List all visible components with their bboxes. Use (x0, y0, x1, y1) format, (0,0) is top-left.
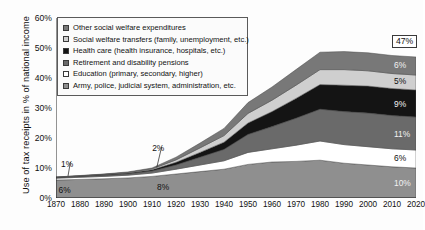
x-tick-1880: 1880 (71, 200, 89, 209)
legend-label: Social welfare transfers (family, unempl… (73, 36, 249, 44)
chart-legend: Other social welfare expendituresSocial … (57, 17, 248, 96)
band-education-2020: 6% (394, 153, 406, 163)
legend-item-2: Health care (health insurance, hospitals… (63, 45, 242, 57)
y-tick-40%: 40% (28, 73, 52, 83)
x-tick-1920: 1920 (167, 200, 185, 209)
y-tick-10%: 10% (28, 163, 52, 173)
left-total-1910: 2% (152, 143, 164, 153)
x-tick-2000: 2000 (359, 200, 377, 209)
legend-swatch-icon (63, 83, 69, 89)
y-tick-60%: 60% (28, 13, 52, 23)
total-2020-boxed: 47% (392, 35, 417, 48)
band-other-2020: 6% (394, 60, 406, 70)
x-tick-1990: 1990 (335, 200, 353, 209)
x-tick-1910: 1910 (143, 200, 161, 209)
x-tick-1970: 1970 (287, 200, 305, 209)
x-tick-1890: 1890 (95, 200, 113, 209)
y-tick-30%: 30% (28, 103, 52, 113)
band-army-2020: 10% (394, 178, 411, 188)
left-base-1875: 6% (59, 185, 71, 195)
y-tick-20%: 20% (28, 133, 52, 143)
left-base-1910: 8% (157, 182, 169, 192)
legend-item-5: Army, police, judicial system, administr… (63, 80, 242, 92)
legend-swatch-icon (63, 60, 69, 66)
legend-label: Army, police, judicial system, administr… (73, 82, 236, 90)
legend-swatch-icon (63, 48, 69, 54)
x-tick-1940: 1940 (215, 200, 233, 209)
y-tick-50%: 50% (28, 43, 52, 53)
x-tick-2020: 2020 (407, 200, 425, 209)
band-transfers-2020: 5% (394, 76, 406, 86)
legend-label: Retirement and disability pensions (73, 59, 189, 67)
legend-label: Health care (health insurance, hospitals… (73, 47, 225, 55)
x-tick-1950: 1950 (239, 200, 257, 209)
x-tick-1930: 1930 (191, 200, 209, 209)
legend-item-0: Other social welfare expenditures (63, 22, 242, 34)
y-axis-tick-labels: 0%10%20%30%40%50%60% (24, 0, 52, 230)
legend-label: Education (primary, secondary, higher) (73, 70, 203, 78)
x-tick-1980: 1980 (311, 200, 329, 209)
band-pensions-2020: 11% (394, 129, 410, 139)
legend-swatch-icon (63, 36, 69, 42)
legend-item-1: Social welfare transfers (family, unempl… (63, 34, 242, 46)
x-tick-1870: 1870 (47, 200, 65, 209)
legend-swatch-icon (63, 71, 69, 77)
left-total-1875: 1% (61, 159, 73, 169)
x-tick-1900: 1900 (119, 200, 137, 209)
legend-swatch-icon (63, 25, 69, 31)
legend-label: Other social welfare expenditures (73, 24, 186, 32)
x-tick-1960: 1960 (263, 200, 281, 209)
legend-item-4: Education (primary, secondary, higher) (63, 68, 242, 80)
x-tick-2010: 2010 (383, 200, 401, 209)
band-health-2020: 9% (394, 99, 406, 109)
legend-item-3: Retirement and disability pensions (63, 57, 242, 69)
x-axis-tick-labels: 1870188018901900191019201930194019501960… (56, 200, 416, 216)
